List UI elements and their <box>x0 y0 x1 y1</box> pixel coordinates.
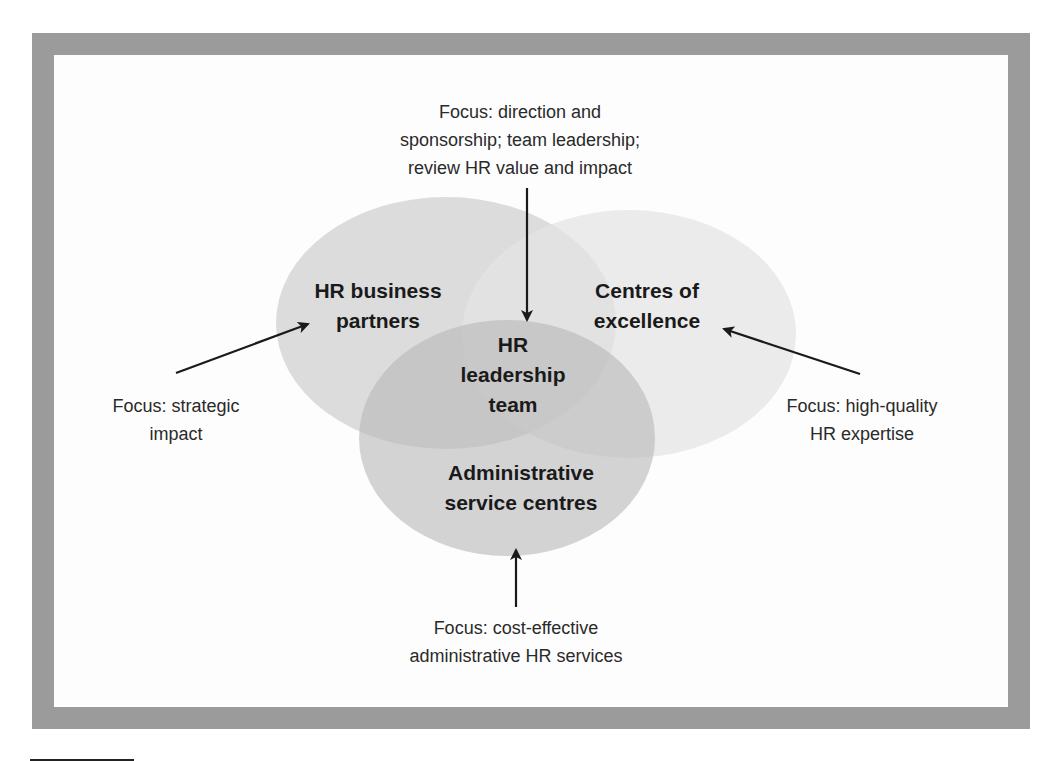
svg-text:service centres: service centres <box>445 491 598 514</box>
svg-text:review HR value and impact: review HR value and impact <box>408 158 632 178</box>
svg-text:impact: impact <box>149 424 202 444</box>
svg-text:excellence: excellence <box>594 309 700 332</box>
svg-text:sponsorship; team leadership;: sponsorship; team leadership; <box>400 130 640 150</box>
svg-text:Centres of: Centres of <box>595 279 700 302</box>
svg-text:Focus: cost-effective: Focus: cost-effective <box>434 618 599 638</box>
svg-text:leadership: leadership <box>460 363 565 386</box>
svg-text:Focus: strategic: Focus: strategic <box>112 396 239 416</box>
svg-text:team: team <box>488 393 537 416</box>
focus-bottom: Focus: cost-effective administrative HR … <box>409 618 622 666</box>
focus-left: Focus: strategic impact <box>112 396 239 444</box>
svg-text:HR expertise: HR expertise <box>810 424 914 444</box>
svg-text:Administrative: Administrative <box>448 461 594 484</box>
focus-right: Focus: high-quality HR expertise <box>786 396 937 444</box>
svg-text:Focus: direction and: Focus: direction and <box>439 102 601 122</box>
svg-text:HR business: HR business <box>314 279 441 302</box>
svg-text:administrative HR services: administrative HR services <box>409 646 622 666</box>
svg-text:HR: HR <box>498 333 528 356</box>
svg-text:partners: partners <box>336 309 420 332</box>
venn-diagram: HR business partners Centres of excellen… <box>0 0 1055 761</box>
svg-text:Focus: high-quality: Focus: high-quality <box>786 396 937 416</box>
focus-top: Focus: direction and sponsorship; team l… <box>400 102 640 178</box>
